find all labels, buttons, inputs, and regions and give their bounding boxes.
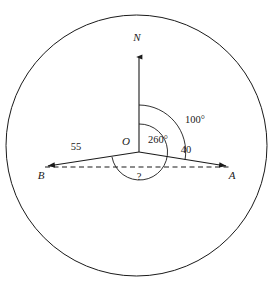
distance-oa-label: 40 [181, 144, 192, 155]
point-b-label: B [38, 169, 45, 181]
distance-ob-label: 55 [71, 141, 82, 152]
bearing-figure-container: N O A B 100° 260° 55 40 ? [0, 0, 276, 291]
angle-100-label: 100° [185, 114, 205, 125]
angle-260-label: 260° [148, 134, 168, 145]
bearing-diagram: N O A B 100° 260° 55 40 ? [0, 0, 276, 291]
unknown-distance-label: ? [137, 171, 142, 182]
angle-arc-100 [139, 105, 186, 160]
origin-label: O [122, 135, 130, 147]
outer-circle [6, 15, 267, 276]
north-label: N [132, 31, 141, 43]
ray-to-b [48, 152, 139, 166]
point-a-label: A [228, 169, 236, 181]
